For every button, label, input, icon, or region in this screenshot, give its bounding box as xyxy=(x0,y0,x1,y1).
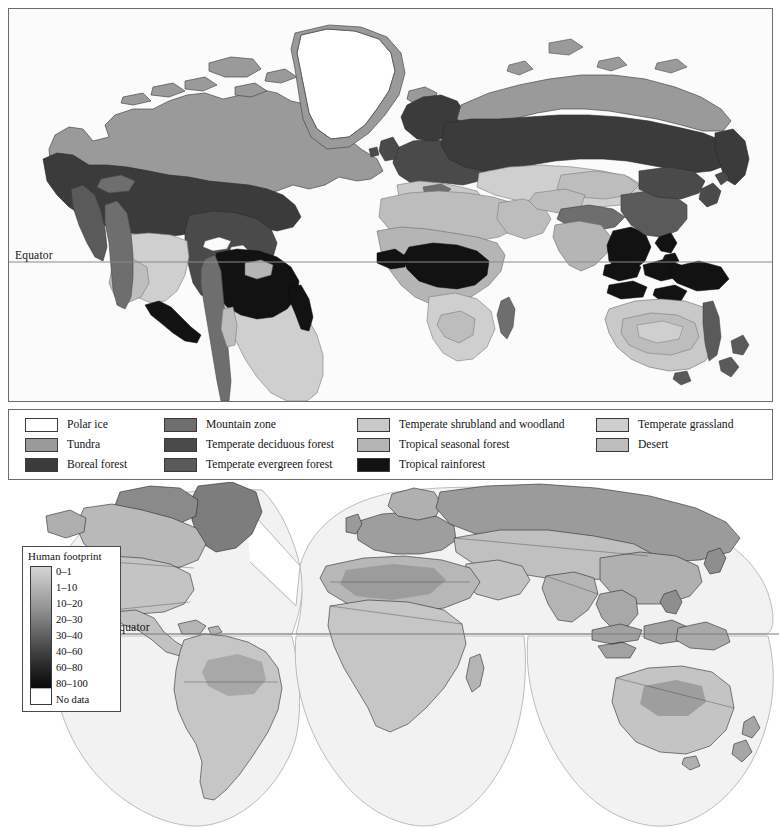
human-footprint-legend: Human footprint 0–1 1–10 10–20 20–30 30–… xyxy=(22,546,121,712)
legend-column-3: Temperate shrubland and woodland Tropica… xyxy=(357,415,565,475)
swatch-polar-ice xyxy=(25,418,58,432)
footprint-tick-40-60: 40–60 xyxy=(56,647,82,658)
legend-item-temperate-grassland: Temperate grassland xyxy=(596,415,733,434)
legend-label-tropical-seasonal-forest: Tropical seasonal forest xyxy=(399,439,509,451)
legend-label-temperate-deciduous-forest: Temperate deciduous forest xyxy=(206,439,334,451)
swatch-tropical-seasonal-forest xyxy=(357,438,390,452)
legend-label-desert: Desert xyxy=(638,439,668,451)
swatch-boreal-forest xyxy=(25,458,58,472)
legend-item-mountain-zone: Mountain zone xyxy=(164,415,334,434)
legend-column-4: Temperate grassland Desert xyxy=(596,415,733,455)
swatch-tropical-rainforest xyxy=(357,458,390,472)
footprint-tick-10-20: 10–20 xyxy=(56,599,82,610)
footprint-tick-0-1: 0–1 xyxy=(56,567,72,578)
swatch-temperate-deciduous-forest xyxy=(164,438,197,452)
equator-label-panel-a: Equator xyxy=(15,249,53,261)
footprint-tick-1-10: 1–10 xyxy=(56,583,77,594)
legend-item-polar-ice: Polar ice xyxy=(25,415,127,434)
legend-label-tropical-rainforest: Tropical rainforest xyxy=(399,459,485,471)
legend-item-temperate-shrubland: Temperate shrubland and woodland xyxy=(357,415,565,434)
legend-column-1: Polar ice Tundra Boreal forest xyxy=(25,415,127,475)
legend-item-temperate-evergreen-forest: Temperate evergreen forest xyxy=(164,455,334,474)
footprint-tick-20-30: 20–30 xyxy=(56,615,82,626)
swatch-tundra xyxy=(25,438,58,452)
biome-legend: Polar ice Tundra Boreal forest Mountain … xyxy=(8,409,773,480)
footprint-tick-no-data: No data xyxy=(56,695,89,706)
swatch-temperate-shrubland xyxy=(357,418,390,432)
human-footprint-gradient-bar xyxy=(30,566,52,705)
legend-label-mountain-zone: Mountain zone xyxy=(206,419,276,431)
legend-label-temperate-shrubland: Temperate shrubland and woodland xyxy=(399,419,565,431)
legend-item-temperate-deciduous-forest: Temperate deciduous forest xyxy=(164,435,334,454)
legend-column-2: Mountain zone Temperate deciduous forest… xyxy=(164,415,334,475)
footprint-tick-80-100: 80–100 xyxy=(56,679,88,690)
legend-label-boreal-forest: Boreal forest xyxy=(67,459,127,471)
legend-item-tropical-seasonal-forest: Tropical seasonal forest xyxy=(357,435,565,454)
legend-item-tundra: Tundra xyxy=(25,435,127,454)
legend-item-tropical-rainforest: Tropical rainforest xyxy=(357,455,565,474)
swatch-mountain-zone xyxy=(164,418,197,432)
legend-item-desert: Desert xyxy=(596,435,733,454)
swatch-temperate-grassland xyxy=(596,418,629,432)
footprint-tick-60-80: 60–80 xyxy=(56,663,82,674)
legend-label-tundra: Tundra xyxy=(67,439,100,451)
legend-item-boreal-forest: Boreal forest xyxy=(25,455,127,474)
swatch-temperate-evergreen-forest xyxy=(164,458,197,472)
panel-b-human-footprint: (B) xyxy=(0,482,779,828)
legend-label-polar-ice: Polar ice xyxy=(67,419,108,431)
panel-a-biome-map: Equator xyxy=(8,8,773,402)
legend-label-temperate-evergreen-forest: Temperate evergreen forest xyxy=(206,459,332,471)
swatch-desert xyxy=(596,438,629,452)
biome-map-svg xyxy=(9,9,772,401)
legend-label-temperate-grassland: Temperate grassland xyxy=(638,419,733,431)
human-footprint-legend-title: Human footprint xyxy=(28,550,102,562)
footprint-tick-30-40: 30–40 xyxy=(56,631,82,642)
